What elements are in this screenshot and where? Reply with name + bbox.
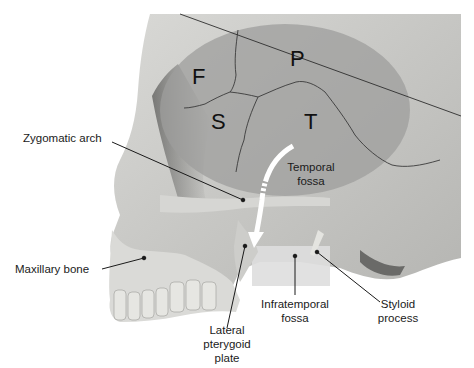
maxillary-bone-label: Maxillary bone: [15, 262, 89, 276]
frontal-bone-letter: F: [192, 66, 205, 88]
sphenoid-bone-letter: S: [211, 111, 226, 133]
lateral-pterygoid-plate-label: Lateral pterygoid plate: [196, 323, 258, 365]
infratemporal-fossa-label-line2: fossa: [254, 311, 336, 325]
parietal-bone-letter: P: [290, 48, 305, 70]
temporal-fossa-label: Temporal fossa: [280, 160, 342, 188]
styloid-process-label: Styloid process: [372, 297, 424, 325]
temporal-bone-letter: T: [304, 111, 317, 133]
styloid-process-label-line2: process: [372, 311, 424, 325]
skull-diagram: F P S T Temporal fossa Zygomatic arch Ma…: [0, 0, 474, 368]
lateral-pterygoid-label-line1: Lateral: [196, 323, 258, 337]
infratemporal-fossa-label: Infratemporal fossa: [254, 297, 336, 325]
styloid-process-label-line1: Styloid: [372, 297, 424, 311]
zygomatic-arch-label: Zygomatic arch: [23, 131, 102, 145]
infratemporal-fossa-label-line1: Infratemporal: [254, 297, 336, 311]
lateral-pterygoid-label-line3: plate: [196, 351, 258, 365]
lateral-pterygoid-label-line2: pterygoid: [196, 337, 258, 351]
temporal-fossa-label-line2: fossa: [280, 174, 342, 188]
temporal-fossa-label-line1: Temporal: [280, 160, 342, 174]
